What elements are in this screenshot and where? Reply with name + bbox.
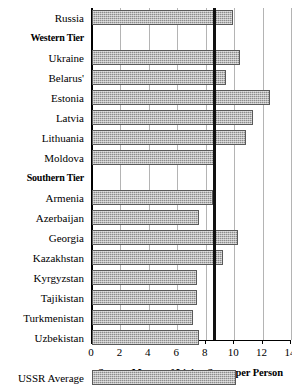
bar [92, 70, 226, 85]
x-tick-14 [290, 340, 291, 344]
bar-row [92, 328, 290, 348]
bar-row [92, 308, 290, 328]
category-label: Russia [0, 8, 88, 28]
bar-row [92, 148, 290, 168]
bar-row [92, 48, 290, 68]
bar [92, 230, 238, 245]
category-label: Tajikistan [0, 288, 88, 308]
bar-row [92, 8, 290, 28]
bar-row [92, 288, 290, 308]
gridline-14 [291, 8, 292, 340]
bar-row [92, 208, 290, 228]
bar [92, 250, 223, 265]
bar [92, 90, 270, 105]
bar-row [92, 368, 290, 388]
category-label: Turkmenistan [0, 308, 88, 328]
tier-header-label: Southern Tier [0, 168, 88, 188]
category-label: Azerbaijan [0, 208, 88, 228]
category-label: Latvia [0, 108, 88, 128]
spacer-label [0, 348, 88, 368]
bar-row [92, 108, 290, 128]
category-label: USSR Average [0, 368, 88, 388]
category-label: Armenia [0, 188, 88, 208]
category-label: Kazakhstan [0, 248, 88, 268]
bar [92, 150, 216, 165]
bar [92, 330, 199, 345]
bar-row [92, 88, 290, 108]
bar [92, 310, 193, 325]
category-label: Ukraine [0, 48, 88, 68]
category-label: Moldova [0, 148, 88, 168]
bar-row [92, 188, 290, 208]
category-label: Belarus' [0, 68, 88, 88]
bar [92, 370, 236, 385]
category-label-column: RussiaWestern TierUkraineBelarus'Estonia… [0, 8, 88, 388]
bar-row [92, 228, 290, 248]
category-label: Uzbekistan [0, 328, 88, 348]
bar [92, 190, 213, 205]
bar-row [92, 268, 290, 288]
bar-row [92, 248, 290, 268]
bar [92, 110, 253, 125]
empty-row [92, 28, 290, 48]
category-label: Kyrgyzstan [0, 268, 88, 288]
category-label: Estonia [0, 88, 88, 108]
bar-row [92, 128, 290, 148]
bar [92, 10, 233, 25]
empty-row [92, 348, 290, 368]
bar-row [92, 68, 290, 88]
bar [92, 270, 197, 285]
bar [92, 210, 199, 225]
plot-area [91, 8, 290, 340]
bar [92, 130, 246, 145]
bar-rows [92, 8, 290, 340]
bar-chart: RussiaWestern TierUkraineBelarus'Estonia… [0, 0, 292, 391]
empty-row [92, 168, 290, 188]
category-label: Georgia [0, 228, 88, 248]
category-label: Lithuania [0, 128, 88, 148]
bar [92, 290, 197, 305]
bar [92, 50, 240, 65]
tier-header-label: Western Tier [0, 28, 88, 48]
reference-line [213, 8, 216, 340]
